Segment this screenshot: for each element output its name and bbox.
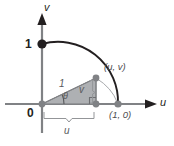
point-one-zero-label: (1, 0) [109,110,131,120]
theta-angle-label: θ [63,92,68,101]
dot-point-uv [93,75,100,82]
dot-foot [93,101,100,108]
unit-circle-diagram: v u 1 0 (u, v) (1, 0) 1 v u θ [0,0,174,146]
opposite-side-label: v [79,85,84,95]
u-measure-brace [44,112,94,122]
origin-label: 0 [27,107,34,119]
y-axis-label: v [44,2,50,13]
dot-unit-y [37,39,46,48]
y-axis [37,13,46,133]
dot-origin [39,101,46,108]
dot-unit-x [114,100,121,107]
diagram-canvas [0,0,174,146]
y-tick-label-one: 1 [25,38,32,50]
x-axis-label: u [160,97,166,108]
adjacent-side-label: u [64,126,70,136]
point-uv-label: (u, v) [104,62,126,72]
hypotenuse-label: 1 [59,79,65,89]
